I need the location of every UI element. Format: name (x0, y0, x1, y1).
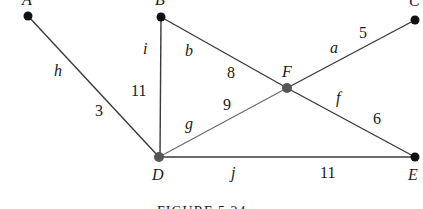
vertex-label-F: F (281, 63, 292, 80)
edge-name-b: b (185, 42, 193, 59)
edge-weight-a: 5 (359, 24, 367, 41)
figure-caption: FIGURE 5.24 (157, 204, 247, 209)
vertex-label-B: B (155, 0, 165, 8)
edge-name-i: i (143, 40, 147, 57)
vertex-label-A: A (21, 0, 32, 8)
edge-weight-f: 6 (373, 110, 381, 127)
edge-name-a: a (330, 39, 338, 56)
edge-name-h: h (54, 62, 62, 79)
vertex-D (154, 152, 164, 162)
edge-f-F-E (287, 88, 415, 157)
vertex-E (411, 153, 420, 162)
edge-weight-i: 11 (131, 82, 146, 99)
vertex-label-E: E (407, 166, 418, 183)
edge-weight-b: 8 (227, 64, 235, 81)
edge-weight-g: 9 (223, 96, 231, 113)
edge-weight-j: 11 (320, 164, 335, 181)
edge-a-F-C (287, 20, 415, 88)
vertex-label-C: C (409, 0, 420, 9)
vertex-label-D: D (151, 166, 164, 183)
weighted-graph-diagram: A B C D E F h i b g a f j 3 11 8 9 5 6 1… (0, 0, 423, 209)
vertex-F (282, 83, 292, 93)
edge-weight-h: 3 (95, 102, 103, 119)
edge-i-B-D (160, 17, 161, 157)
edge-name-f: f (336, 89, 343, 107)
vertex-B (157, 13, 166, 22)
edge-name-g: g (185, 115, 193, 133)
edge-name-j: j (229, 164, 236, 182)
edge-b-B-F (161, 17, 287, 88)
vertex-C (411, 16, 420, 25)
vertex-A (24, 12, 33, 21)
